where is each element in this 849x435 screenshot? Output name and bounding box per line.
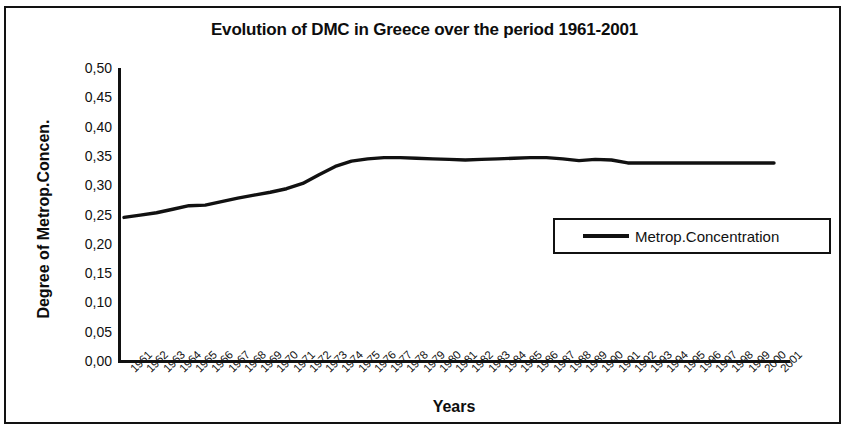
chart-legend: Metrop.Concentration <box>553 218 831 254</box>
y-axis-tick-label: 0,20 <box>66 237 112 251</box>
y-axis-tick-label: 0,30 <box>66 178 112 192</box>
data-line-metrop-concentration <box>124 158 774 218</box>
axis-lines <box>118 68 790 363</box>
x-axis-title: Years <box>118 398 790 416</box>
y-axis-tick-label: 0,50 <box>66 61 112 75</box>
chart-figure: Evolution of DMC in Greece over the peri… <box>0 0 849 435</box>
line-chart-svg <box>118 68 790 363</box>
y-axis-tick-labels: 0,500,450,400,350,300,250,200,150,100,05… <box>62 68 112 363</box>
y-axis-tick-label: 0,15 <box>66 266 112 280</box>
y-axis-tick-label: 0,40 <box>66 120 112 134</box>
y-axis-title: Degree of Metrop.Concen. <box>35 89 53 349</box>
chart-title: Evolution of DMC in Greece over the peri… <box>0 20 849 40</box>
y-axis-tick-label: 0,25 <box>66 208 112 222</box>
y-axis-tick-label: 0,00 <box>66 354 112 368</box>
y-axis-tick-label: 0,10 <box>66 295 112 309</box>
plot-area <box>118 68 790 363</box>
y-axis-tick-label: 0,05 <box>66 325 112 339</box>
legend-line-swatch <box>583 234 629 238</box>
legend-label-metrop-concentration: Metrop.Concentration <box>635 228 779 245</box>
y-axis-tick-label: 0,45 <box>66 90 112 104</box>
y-axis-tick-label: 0,35 <box>66 149 112 163</box>
